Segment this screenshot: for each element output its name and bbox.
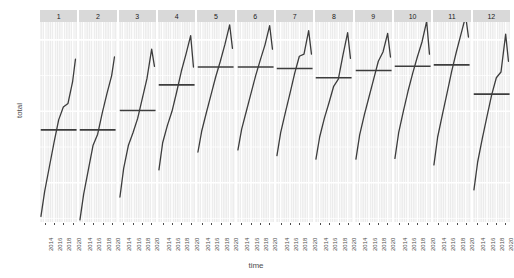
x-tick-label: 2018: [460, 238, 466, 251]
panel-svg: [433, 22, 470, 222]
x-tick-mark: [387, 223, 388, 225]
x-tick-group: 2014201620182020: [79, 223, 116, 259]
x-tick-label: 2018: [106, 238, 112, 251]
x-tick-mark: [359, 223, 360, 225]
x-tick-label: 2014: [480, 238, 486, 251]
x-tick-mark: [84, 223, 85, 225]
panel-plot-area: [276, 22, 313, 222]
x-tick-group: 2014201620182020: [394, 223, 431, 259]
x-tick-mark: [221, 223, 222, 225]
x-tick-label: 2016: [450, 238, 456, 251]
x-tick-label: 2018: [302, 238, 308, 251]
x-tick-group: 2014201620182020: [119, 223, 156, 259]
x-tick-mark: [73, 223, 74, 225]
x-tick-label: 2018: [184, 238, 190, 251]
facet-panel: 11: [433, 10, 470, 222]
panel-svg: [276, 22, 313, 222]
x-tick-mark: [142, 223, 143, 225]
x-tick-label: 2020: [508, 238, 514, 251]
x-tick-label: 2014: [205, 238, 211, 251]
x-tick-mark: [408, 223, 409, 225]
x-axis-title: time: [0, 261, 512, 270]
x-tick-mark: [151, 223, 152, 225]
x-tick-mark: [339, 223, 340, 225]
facet-panel: 2: [79, 10, 116, 222]
x-tick-group: 2014201620182020: [237, 223, 274, 259]
x-tick-mark: [269, 223, 270, 225]
panel-svg: [79, 22, 116, 222]
facet-strip-label: 1: [40, 10, 77, 22]
x-tick-mark: [378, 223, 379, 225]
x-tick-label: 2016: [372, 238, 378, 251]
x-tick-label: 2016: [490, 238, 496, 251]
x-tick-label: 2014: [441, 238, 447, 251]
x-tick-label: 2016: [254, 238, 260, 251]
x-tick-mark: [438, 223, 439, 225]
x-tick-mark: [505, 223, 506, 225]
x-tick-label: 2014: [87, 238, 93, 251]
x-tick-group: 2014201620182020: [197, 223, 234, 259]
facet-strip-label: 5: [197, 10, 234, 22]
x-tick-mark: [427, 223, 428, 225]
x-tick-label: 2016: [214, 238, 220, 251]
panel-svg: [237, 22, 274, 222]
x-tick-mark: [163, 223, 164, 225]
x-tick-label: 2014: [166, 238, 172, 251]
x-tick-mark: [281, 223, 282, 225]
x-tick-label: 2018: [420, 238, 426, 251]
facet-panel: 6: [237, 10, 274, 222]
x-tick-mark: [241, 223, 242, 225]
x-tick-label: 2016: [136, 238, 142, 251]
facet-panel: 10: [394, 10, 431, 222]
facet-strip-label: 3: [119, 10, 156, 22]
x-tick-mark: [477, 223, 478, 225]
x-tick-mark: [417, 223, 418, 225]
x-tick-mark: [290, 223, 291, 225]
x-tick-label: 2018: [342, 238, 348, 251]
panel-plot-area: [158, 22, 195, 222]
x-tick-mark: [211, 223, 212, 225]
x-tick-label: 2018: [224, 238, 230, 251]
x-tick-mark: [202, 223, 203, 225]
x-tick-mark: [123, 223, 124, 225]
panel-svg: [394, 22, 431, 222]
x-tick-label: 2018: [145, 238, 151, 251]
x-tick-label: 2014: [284, 238, 290, 251]
x-tick-group: 2014201620182020: [40, 223, 77, 259]
x-tick-label: 2018: [499, 238, 505, 251]
x-tick-mark: [191, 223, 192, 225]
facet-panel: 4: [158, 10, 195, 222]
facet-panel: 7: [276, 10, 313, 222]
x-tick-mark: [309, 223, 310, 225]
x-tick-mark: [112, 223, 113, 225]
x-tick-group: 2014201620182020: [433, 223, 470, 259]
panel-svg: [119, 22, 156, 222]
x-tick-label: 2018: [263, 238, 269, 251]
panel-plot-area: [79, 22, 116, 222]
x-tick-label: 2016: [96, 238, 102, 251]
x-tick-label: 2016: [175, 238, 181, 251]
x-tick-group: 2014201620182020: [276, 223, 313, 259]
x-tick-mark: [251, 223, 252, 225]
x-tick-mark: [103, 223, 104, 225]
x-tick-mark: [133, 223, 134, 225]
facet-strip-label: 12: [473, 10, 510, 22]
facet-panel: 12: [473, 10, 510, 222]
panel-svg: [473, 22, 510, 222]
x-tick-mark: [93, 223, 94, 225]
x-tick-mark: [348, 223, 349, 225]
x-tick-mark: [45, 223, 46, 225]
x-tick-mark: [63, 223, 64, 225]
x-tick-mark: [457, 223, 458, 225]
x-tick-label: 2014: [244, 238, 250, 251]
x-tick-mark: [172, 223, 173, 225]
x-tick-mark: [487, 223, 488, 225]
facet-panel: 1: [40, 10, 77, 222]
panel-plot-area: [119, 22, 156, 222]
panel-svg: [355, 22, 392, 222]
x-tick-label: 2016: [332, 238, 338, 251]
panel-plot-area: [315, 22, 352, 222]
panel-plot-area: [433, 22, 470, 222]
x-tick-label: 2018: [381, 238, 387, 251]
